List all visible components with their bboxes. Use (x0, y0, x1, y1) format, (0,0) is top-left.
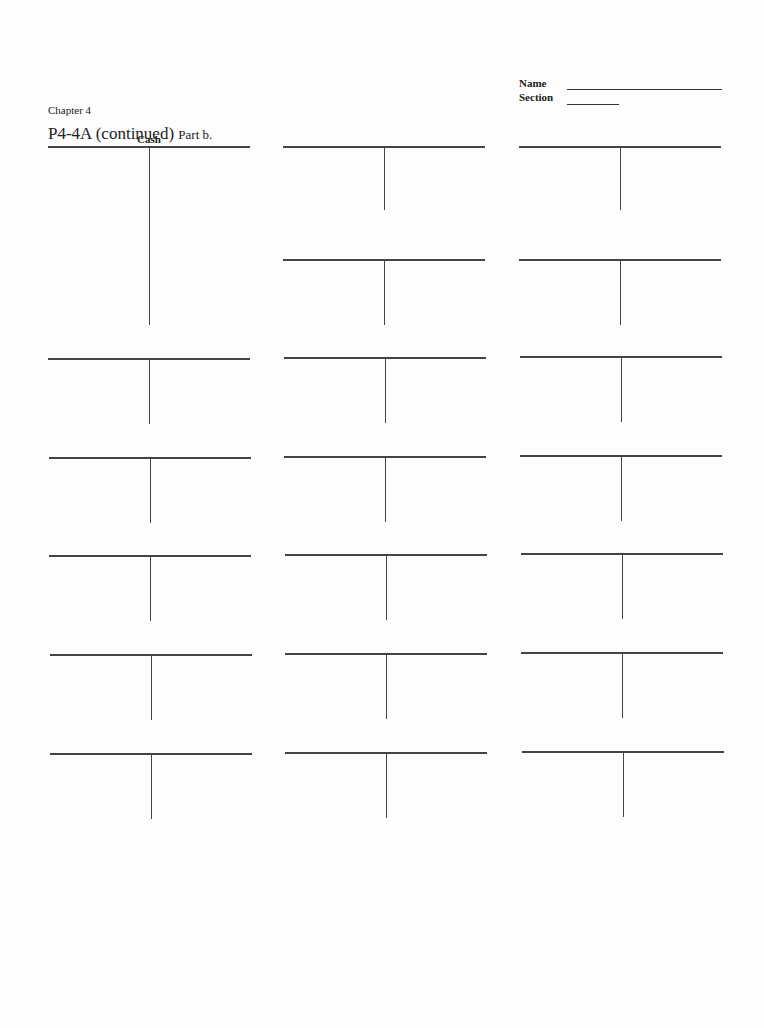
t-account[interactable] (285, 653, 487, 719)
name-field-line[interactable] (567, 89, 722, 90)
t-account[interactable] (283, 259, 485, 325)
t-account[interactable] (285, 752, 487, 818)
t-account[interactable] (519, 146, 721, 210)
t-account-divider (151, 654, 152, 720)
t-account-divider (386, 752, 387, 818)
t-account-divider (620, 146, 621, 210)
t-account[interactable] (50, 654, 252, 720)
t-account[interactable] (50, 753, 252, 819)
t-account[interactable]: Cash (48, 146, 250, 325)
t-account[interactable] (283, 146, 485, 210)
section-label: Section (519, 91, 553, 103)
t-account[interactable] (284, 456, 486, 522)
t-account-divider (622, 553, 623, 619)
t-account[interactable] (48, 358, 250, 424)
t-account[interactable] (49, 555, 251, 621)
section-field-line[interactable] (567, 104, 619, 105)
t-account-title: Cash (48, 133, 250, 145)
t-account[interactable] (520, 455, 722, 521)
t-account-divider (623, 751, 624, 817)
t-account-divider (384, 259, 385, 325)
chapter-label: Chapter 4 (48, 104, 91, 116)
t-account[interactable] (49, 457, 251, 523)
t-account-divider (621, 356, 622, 422)
t-account[interactable] (522, 751, 724, 817)
t-account-divider (386, 653, 387, 719)
t-account[interactable] (521, 652, 723, 718)
t-account-divider (386, 554, 387, 620)
t-account-divider (620, 259, 621, 325)
t-account[interactable] (284, 357, 486, 423)
t-account-divider (149, 146, 150, 325)
t-account[interactable] (285, 554, 487, 620)
name-label: Name (519, 77, 547, 89)
t-account[interactable] (521, 553, 723, 619)
t-account-divider (150, 555, 151, 621)
t-account-divider (151, 753, 152, 819)
t-account-divider (384, 146, 385, 210)
t-account-divider (621, 455, 622, 521)
t-account-divider (150, 457, 151, 523)
t-account[interactable] (520, 356, 722, 422)
t-account-divider (622, 652, 623, 718)
t-account[interactable] (519, 259, 721, 325)
t-account-divider (149, 358, 150, 424)
t-account-divider (385, 456, 386, 522)
t-account-divider (385, 357, 386, 423)
